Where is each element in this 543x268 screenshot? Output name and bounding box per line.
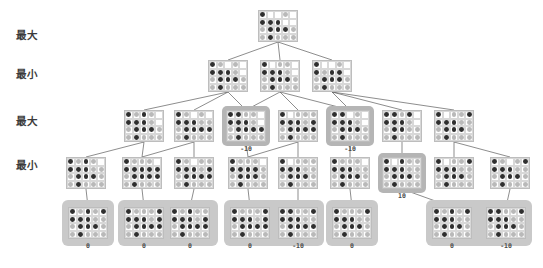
board-cell [90,158,98,166]
dark-piece-icon [350,224,355,229]
board-cell [155,231,163,239]
board-cell [153,158,161,166]
board-cell [450,111,458,119]
board-cell [398,181,406,189]
dark-piece-icon [134,127,139,132]
board-cell [356,208,364,216]
board-cell [201,216,209,224]
light-piece-icon [149,209,154,214]
board-cell [237,166,245,174]
board-cell [391,173,399,181]
dark-piece-icon [172,217,177,222]
light-piece-icon [457,217,462,222]
light-piece-icon [384,135,389,140]
board-cell [155,134,163,142]
board-cell [465,173,473,181]
dark-piece-icon [226,70,231,75]
light-piece-icon [457,209,462,214]
board-cell [198,181,206,189]
board-cell [123,166,131,174]
board-cell [309,119,317,127]
board-cell [140,119,148,127]
dark-piece-icon [500,174,505,179]
light-piece-icon [459,159,464,164]
board-cell [294,208,302,216]
dark-piece-icon [330,70,335,75]
light-piece-icon [155,182,160,187]
board-cell [398,119,406,127]
light-piece-icon [91,159,96,164]
board-cell [198,166,206,174]
board-cell [294,181,302,189]
dark-piece-icon [283,27,288,32]
light-piece-icon [70,224,75,229]
board-cell [321,69,329,77]
dark-piece-icon [233,77,238,82]
dark-piece-icon [288,224,293,229]
board-cell [333,231,341,239]
empty-cell-icon [157,112,162,117]
tree-edge-n5-n12 [142,142,194,157]
board-cell [450,166,458,174]
board-cell [232,61,240,69]
board-cell [123,181,131,189]
board-cell [287,126,295,134]
dark-piece-icon [255,224,260,229]
dark-piece-icon [157,224,162,229]
light-piece-icon [523,174,528,179]
dark-piece-icon [134,224,139,229]
empty-cell-icon [268,12,273,17]
board-cell [331,119,339,127]
dark-piece-icon [303,127,308,132]
light-piece-icon [251,112,256,117]
dark-piece-icon [400,127,405,132]
board-cell [413,119,421,127]
light-piece-icon [515,159,520,164]
dark-piece-icon [276,20,281,25]
board-cell [131,166,139,174]
light-piece-icon [285,70,290,75]
board-cell [495,231,503,239]
dark-piece-icon [78,217,83,222]
board-L2 [124,207,164,239]
empty-cell-icon [99,159,104,164]
board-cell [279,126,287,134]
dark-piece-icon [184,167,189,172]
dark-piece-icon [228,112,233,117]
light-piece-icon [355,159,360,164]
dark-piece-icon [296,167,301,172]
dark-piece-icon [230,167,235,172]
board-cell [190,134,198,142]
board-cell [229,166,237,174]
board-cell [257,134,265,142]
light-piece-icon [332,182,337,187]
board-cell [506,173,514,181]
light-piece-icon [303,232,308,237]
dark-piece-icon [93,224,98,229]
dark-piece-icon [263,209,268,214]
light-piece-icon [93,209,98,214]
light-piece-icon [228,135,233,140]
board-cell [209,76,217,84]
board-cell [443,119,451,127]
light-piece-icon [332,174,337,179]
empty-cell-icon [415,112,420,117]
dark-piece-icon [434,209,439,214]
light-piece-icon [140,182,145,187]
light-piece-icon [280,224,285,229]
light-piece-icon [350,209,355,214]
board-cell [148,134,156,142]
board-cell [133,208,141,216]
board-cell [148,223,156,231]
dark-piece-icon [192,127,197,132]
light-piece-icon [519,232,524,237]
dark-piece-icon [285,77,290,82]
board-cell [450,134,458,142]
board-cell [138,173,146,181]
board-cell [67,181,75,189]
dark-piece-icon [314,62,319,67]
board-cell [209,61,217,69]
board-cell [235,126,243,134]
dark-piece-icon [260,12,265,17]
board-cell [179,231,187,239]
